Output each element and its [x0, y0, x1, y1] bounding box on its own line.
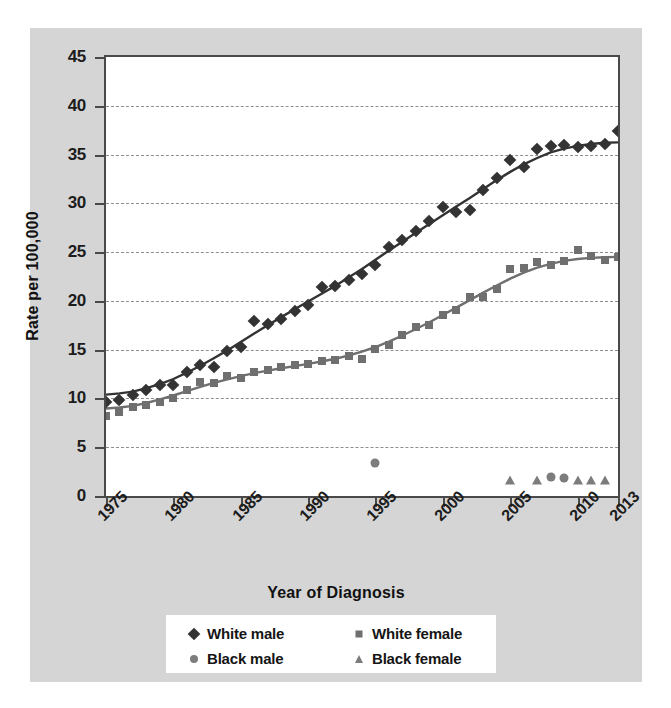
legend-item: White female: [331, 621, 496, 646]
data-point-square: [358, 355, 366, 363]
data-point-square: [466, 293, 474, 301]
data-point-square: [533, 258, 541, 266]
plot-frame: [104, 55, 620, 498]
data-point-square: [142, 401, 150, 409]
y-axis-tick-mark: [95, 447, 104, 449]
data-point-square: [250, 368, 258, 376]
legend-item: Black female: [331, 646, 496, 671]
data-point-square: [345, 352, 353, 360]
data-point-square: [331, 356, 339, 364]
y-axis-tick-label: 10: [52, 388, 86, 408]
caption-fragment: [30, 690, 642, 708]
y-axis-tick-label: 35: [52, 145, 86, 165]
data-point-square: [587, 252, 595, 260]
legend-item: White male: [166, 621, 331, 646]
data-point-square: [304, 360, 312, 368]
data-point-square: [439, 311, 447, 319]
data-point-square: [493, 285, 501, 293]
legend-item-label: White male: [207, 625, 284, 642]
data-point-square: [210, 379, 218, 387]
data-point-square: [506, 265, 514, 273]
legend-item: Black male: [166, 646, 331, 671]
y-axis-tick-label: 0: [52, 486, 86, 506]
data-point-square: [183, 386, 191, 394]
data-point-square: [318, 357, 326, 365]
data-point-square: [115, 408, 123, 416]
data-point-square: [425, 321, 433, 329]
data-point-triangle: [586, 476, 596, 485]
y-axis-tick-mark: [95, 106, 104, 108]
circle-icon: [188, 653, 200, 665]
square-icon: [353, 628, 365, 640]
data-point-square: [479, 293, 487, 301]
plot-area: [106, 57, 618, 496]
data-point-square: [614, 253, 618, 261]
data-point-square: [520, 264, 528, 272]
y-axis-tick-mark: [95, 155, 104, 157]
legend-item-label: White female: [372, 625, 462, 642]
data-point-square: [601, 256, 609, 264]
y-axis-tick-label: 45: [52, 47, 86, 67]
y-axis-title: Rate per 100,000: [24, 211, 42, 341]
data-point-square: [291, 361, 299, 369]
data-point-square: [560, 257, 568, 265]
data-point-square: [129, 403, 137, 411]
data-point-square: [223, 372, 231, 380]
data-point-square: [385, 341, 393, 349]
data-point-square: [277, 363, 285, 371]
data-point-square: [574, 246, 582, 254]
y-axis-tick-mark: [95, 350, 104, 352]
figure-panel: Rate per 100,000 051015202530354045 1975…: [30, 28, 642, 682]
data-point-square: [371, 345, 379, 353]
data-point-triangle: [600, 476, 610, 485]
y-axis-tick-label: 5: [52, 437, 86, 457]
legend-item-label: Black male: [207, 650, 283, 667]
data-point-triangle: [505, 476, 515, 485]
y-axis-tick-label: 25: [52, 242, 86, 262]
y-axis-tick-label: 30: [52, 193, 86, 213]
y-axis-tick-label: 40: [52, 96, 86, 116]
y-axis-tick-label: 15: [52, 340, 86, 360]
data-point-square: [398, 331, 406, 339]
y-axis-tick-mark: [95, 496, 104, 498]
data-point-square: [412, 323, 420, 331]
data-point-circle: [546, 473, 555, 482]
data-point-circle: [560, 474, 569, 483]
data-point-circle: [371, 458, 380, 467]
data-point-triangle: [532, 476, 542, 485]
y-axis-tick-mark: [95, 252, 104, 254]
data-point-square: [237, 374, 245, 382]
triangle-icon: [353, 653, 365, 665]
y-axis-tick-mark: [95, 57, 104, 59]
data-point-square: [264, 366, 272, 374]
data-point-square: [547, 261, 555, 269]
data-point-square: [156, 398, 164, 406]
data-point-square: [196, 378, 204, 386]
y-axis-tick-mark: [95, 203, 104, 205]
y-axis-tick-mark: [95, 301, 104, 303]
data-point-square: [169, 394, 177, 402]
legend-item-label: Black female: [372, 650, 461, 667]
x-axis-title: Year of Diagnosis: [30, 584, 642, 602]
data-point-square: [106, 412, 110, 420]
chart-legend: White maleWhite femaleBlack maleBlack fe…: [166, 615, 496, 673]
diamond-icon: [188, 628, 200, 640]
data-point-square: [452, 306, 460, 314]
y-axis-tick-label: 20: [52, 291, 86, 311]
y-axis-tick-mark: [95, 398, 104, 400]
data-point-triangle: [573, 476, 583, 485]
